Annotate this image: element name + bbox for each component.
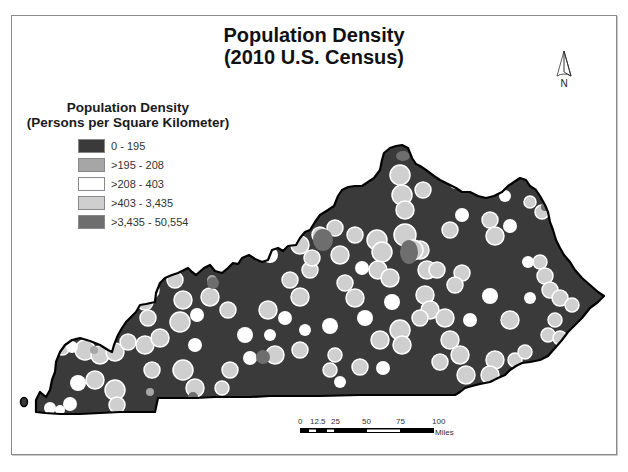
scale-tick-label: 75 [396,417,405,426]
scale-tick-label: 100 [432,417,445,426]
scale-tick-label: 0 [298,417,302,426]
scale-tick-label: 25 [331,417,340,426]
scale-tick-label: 50 [362,417,371,426]
scale-bar-graphic [300,427,450,435]
scale-tick-label: 12.5 [310,417,326,426]
scale-unit: Miles [435,428,454,437]
kentucky-bend-exclave [21,398,28,407]
kentucky-map [0,0,628,472]
